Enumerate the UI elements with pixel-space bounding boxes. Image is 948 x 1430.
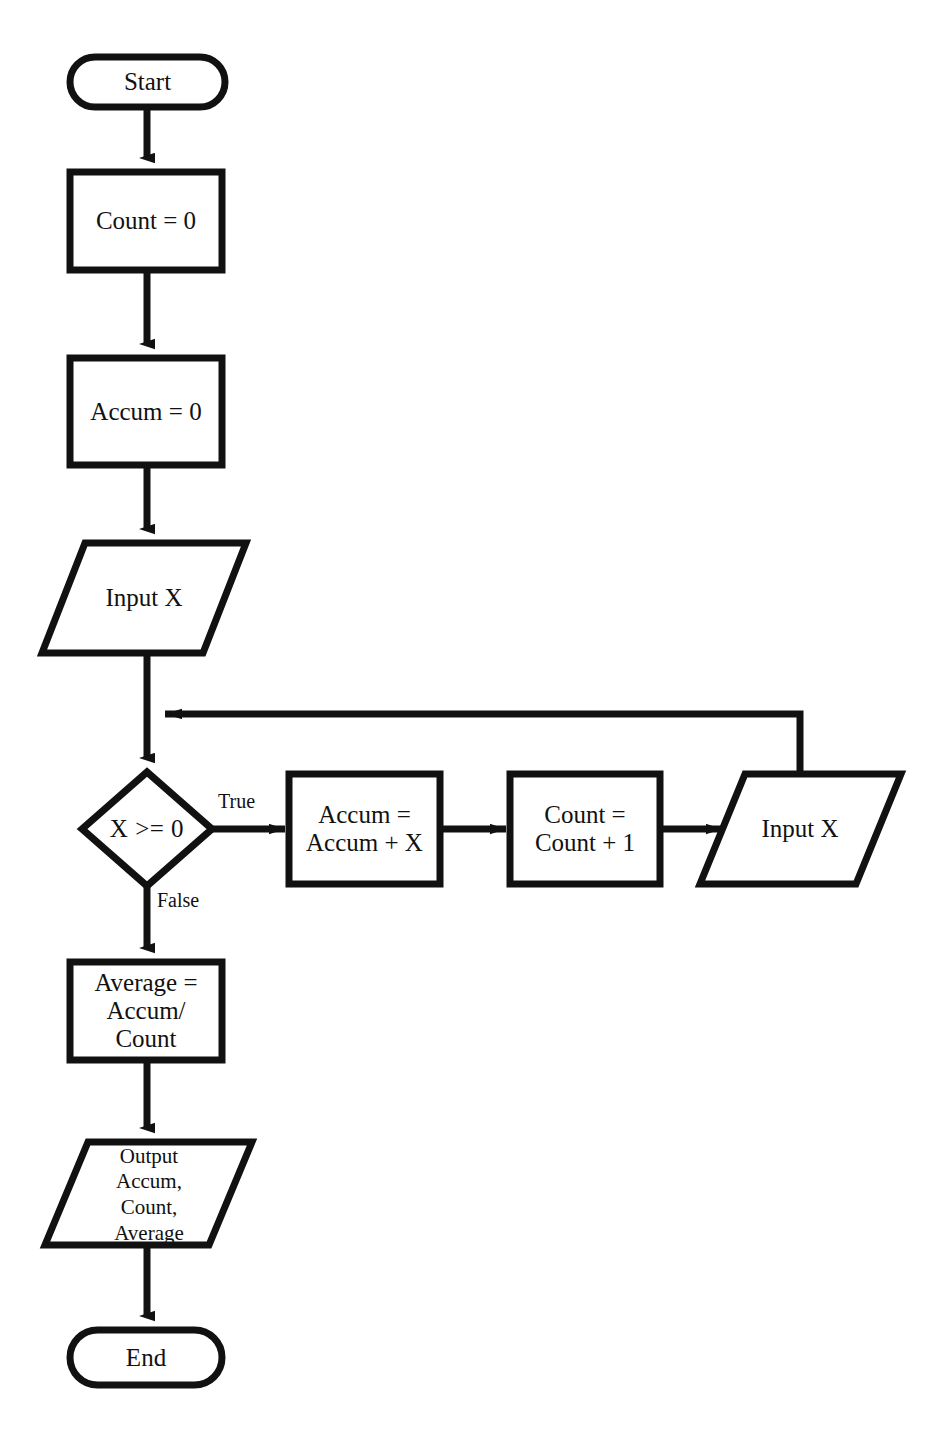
shape-start-terminal xyxy=(70,57,225,107)
shape-accum-add xyxy=(289,774,440,884)
shape-decision xyxy=(82,772,212,886)
shape-count-init xyxy=(70,172,222,270)
flowchart-canvas: Start Count = 0 Accum = 0 Input X X >= 0… xyxy=(0,0,948,1430)
connector-loop-feedback xyxy=(165,714,800,774)
shape-accum-init xyxy=(70,358,222,465)
shape-end-terminal xyxy=(70,1330,222,1385)
shape-output xyxy=(45,1142,252,1245)
shape-input-x-loop xyxy=(700,774,901,884)
flowchart-shapes-and-connectors xyxy=(0,0,948,1430)
shape-input-x-first xyxy=(42,543,246,653)
shape-average xyxy=(70,962,222,1060)
shape-count-add xyxy=(510,774,660,884)
